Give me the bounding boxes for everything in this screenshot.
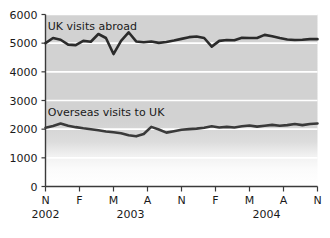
line-chart: 0100020003000400050006000 NFMANFMAN 2002…: [0, 0, 330, 238]
series-annotation-1: UK visits abroad: [48, 20, 137, 33]
x-axis-year-label: 2002: [32, 208, 60, 221]
y-tick-label: 4000: [10, 66, 38, 79]
y-axis-labels: 0100020003000400050006000: [10, 9, 38, 194]
x-axis-year-label: 2003: [117, 208, 145, 221]
y-tick-label: 5000: [10, 37, 38, 50]
x-axis-labels: NFMANFMAN: [41, 194, 321, 207]
x-tick-label: N: [313, 194, 321, 207]
y-tick-label: 1000: [10, 152, 38, 165]
x-tick-label: M: [245, 194, 255, 207]
x-tick-label: M: [109, 194, 119, 207]
x-tick-label: F: [76, 194, 82, 207]
x-tick-label: N: [177, 194, 185, 207]
x-tick-label: N: [41, 194, 49, 207]
x-tick-label: F: [212, 194, 218, 207]
y-tick-label: 2000: [10, 123, 38, 136]
chart-container: 0100020003000400050006000 NFMANFMAN 2002…: [0, 0, 330, 238]
x-axis-year-label: 2004: [253, 208, 281, 221]
y-tick-label: 3000: [10, 95, 38, 108]
series-annotation-2: Overseas visits to UK: [48, 106, 165, 119]
x-tick-label: A: [280, 194, 288, 207]
y-tick-label: 0: [31, 181, 38, 194]
y-tick-label: 6000: [10, 9, 38, 22]
x-axis-ticks: [46, 187, 318, 192]
x-tick-label: A: [144, 194, 152, 207]
x-axis-year-labels: 200220032004: [32, 208, 281, 221]
